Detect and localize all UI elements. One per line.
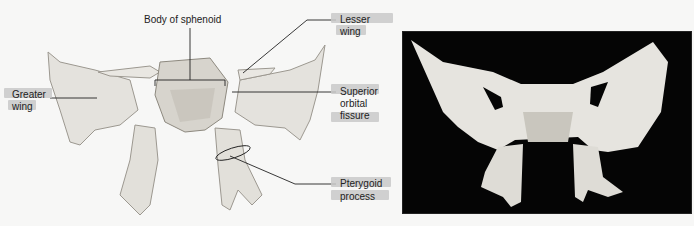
sphenoid-photograph <box>402 31 692 214</box>
label-superior-orbital-fissure-line3: fissure <box>340 110 369 121</box>
label-superior-orbital-fissure-line1: Superior <box>340 86 378 97</box>
sphenoid-photo-shape <box>403 32 691 213</box>
label-pterygoid-process-line2: process <box>340 191 375 202</box>
label-greater-wing-line1: Greater <box>12 89 46 100</box>
label-greater-wing-line2: wing <box>12 101 33 112</box>
label-lesser-wing-line1: Lesser <box>340 14 370 25</box>
label-lesser-wing-line2: wing <box>340 26 361 37</box>
label-superior-orbital-fissure-line2: orbital <box>340 98 367 109</box>
label-body-of-sphenoid: Body of sphenoid <box>144 14 221 25</box>
sphenoid-illustration: Body of sphenoid Lesser wing Greater win… <box>0 0 400 226</box>
label-pterygoid-process-line1: Pterygoid <box>340 178 382 189</box>
